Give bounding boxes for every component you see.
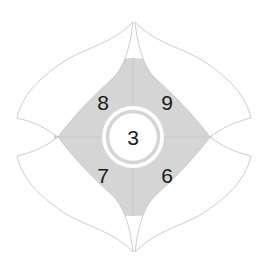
petal-diagram: 8 9 7 6 3 [0,0,266,272]
quadrant-label-bottom-left: 7 [90,165,116,186]
quadrant-label-top-left: 8 [90,92,116,113]
center-label: 3 [120,127,146,148]
quadrant-label-top-right: 9 [154,92,180,113]
quadrant-label-bottom-right: 6 [154,165,180,186]
